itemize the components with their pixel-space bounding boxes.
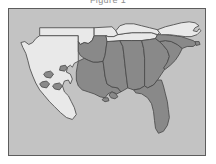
louisiana-coastal-fragment: [102, 98, 109, 102]
figure-container: Figure 1: [0, 0, 216, 164]
state-kentucky[interactable]: [116, 24, 160, 35]
figure-title: Figure 1: [0, 0, 216, 5]
figure-title-clip: Figure 1: [0, 0, 216, 7]
map-frame: [8, 8, 206, 156]
state-virginia[interactable]: [157, 22, 201, 37]
state-missouri[interactable]: [94, 27, 118, 37]
southern-us-map: [9, 9, 205, 155]
atlantic-island-fragment: [195, 42, 200, 46]
